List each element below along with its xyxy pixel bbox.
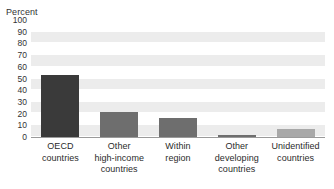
category-label-line: countries (31, 153, 90, 165)
y-axis-tick-labels: 1009080706050403020100 (0, 20, 29, 137)
y-axis-tick-80: 80 (18, 39, 27, 48)
y-axis-tick-0: 0 (22, 133, 27, 142)
bar-chart-figure: Percent 1009080706050403020100 OECDcount… (0, 0, 334, 189)
category-label-5: Unidentifiedcountries (266, 141, 325, 164)
y-axis-tick-70: 70 (18, 51, 27, 60)
y-axis-tick-30: 30 (18, 97, 27, 106)
category-label-line: countries (207, 164, 266, 176)
category-label-line: region (149, 153, 208, 165)
category-label-line: Unidentified (266, 141, 325, 153)
bar-1 (41, 75, 79, 137)
category-label-line: countries (90, 164, 149, 176)
x-axis-category-labels: OECDcountriesOtherhigh-incomecountriesWi… (31, 141, 325, 189)
category-label-line: countries (266, 153, 325, 165)
bar-2 (100, 112, 138, 137)
y-axis-tick-20: 20 (18, 109, 27, 118)
y-axis-tick-50: 50 (18, 74, 27, 83)
bar-series (31, 20, 325, 137)
category-label-line: Other (207, 141, 266, 153)
y-axis-tick-100: 100 (13, 16, 27, 25)
category-label-3: Withinregion (149, 141, 208, 164)
category-label-line: Other (90, 141, 149, 153)
category-label-line: Within (149, 141, 208, 153)
category-label-2: Otherhigh-incomecountries (90, 141, 149, 176)
category-label-line: OECD (31, 141, 90, 153)
y-axis-tick-40: 40 (18, 86, 27, 95)
clipped-caption (0, 0, 334, 7)
bar-5 (277, 129, 315, 137)
category-label-1: OECDcountries (31, 141, 90, 164)
y-axis-tick-60: 60 (18, 62, 27, 71)
y-axis-tick-90: 90 (18, 27, 27, 36)
category-label-4: Otherdevelopingcountries (207, 141, 266, 176)
y-axis-tick-10: 10 (18, 121, 27, 130)
x-axis-line (31, 137, 325, 138)
plot-area (31, 20, 325, 137)
category-label-line: high-income (90, 153, 149, 165)
category-label-line: developing (207, 153, 266, 165)
bar-3 (159, 118, 197, 137)
